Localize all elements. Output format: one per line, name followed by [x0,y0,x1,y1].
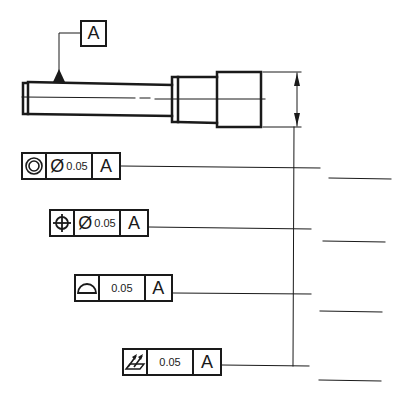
datum-reference: A [93,154,119,178]
tolerance-cell: 0.05 [100,276,146,300]
answer-blank-1 [329,178,391,179]
tolerance-cell: Ø 0.05 [47,154,93,178]
total-runout-icon [124,350,148,374]
datum-reference: A [121,211,147,235]
diameter-symbol: Ø [78,214,92,232]
tolerance-cell: 0.05 [148,350,194,374]
datum-feature-box: A [80,20,107,47]
vertical-leader [293,127,294,366]
feature-control-frame-concentricity: Ø 0.05 A [21,152,121,180]
shaft-chamfer-left [23,83,28,114]
answer-blank-4 [319,380,381,381]
tolerance-value: 0.05 [66,160,87,172]
fcf-leader-3 [172,293,311,294]
tolerance-value: 0.05 [159,356,180,368]
answer-blank-3 [320,311,382,312]
feature-control-frame-position: Ø 0.05 A [49,209,149,237]
concentricity-icon [23,154,47,178]
arrow-up-icon [294,73,300,86]
tolerance-value: 0.05 [94,217,115,229]
answer-blank-2 [323,241,385,242]
feature-control-frame-profile: 0.05 A [74,274,173,302]
tolerance-cell: Ø 0.05 [75,211,121,235]
tolerance-value: 0.05 [111,282,132,294]
fcf-leader-1 [120,166,320,168]
profile-of-surface-icon [76,276,100,300]
fcf-leader-2 [148,227,311,229]
datum-leader [59,33,80,74]
datum-reference: A [194,350,220,374]
datum-triangle-icon [53,69,65,82]
arrow-down-icon [294,113,300,126]
fcf-leader-4 [221,365,309,366]
centerline [22,97,135,98]
diameter-symbol: Ø [50,157,64,175]
feature-control-frame-total-runout: 0.05 A [122,348,222,376]
position-icon [51,211,75,235]
part-drawing [0,0,408,400]
datum-reference: A [146,276,171,300]
